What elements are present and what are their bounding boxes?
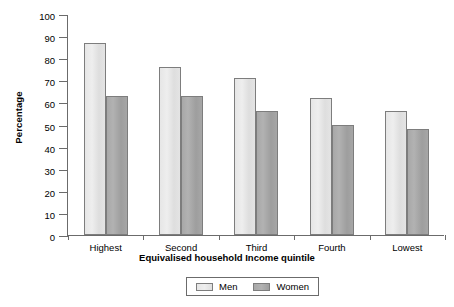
y-axis-tick: 100	[59, 15, 68, 16]
x-axis-tick	[294, 235, 295, 240]
chart-legend: MenWomen	[186, 277, 319, 296]
y-axis-tick-label: 50	[44, 121, 55, 132]
x-axis-tick	[445, 235, 446, 240]
bar-women-fourth[interactable]	[332, 125, 354, 236]
y-axis-tick: 20	[59, 192, 68, 193]
y-axis-tick-label: 100	[39, 11, 55, 22]
y-axis-tick-label: 30	[44, 165, 55, 176]
y-axis-tick-label: 0	[50, 232, 55, 243]
x-axis-tick	[370, 235, 371, 240]
bar-women-highest[interactable]	[106, 96, 128, 235]
y-axis-tick: 0	[59, 236, 68, 237]
legend-swatch-icon	[196, 283, 213, 291]
bar-men-second[interactable]	[159, 67, 181, 235]
legend-item-men[interactable]: Men	[196, 281, 237, 292]
bar-women-second[interactable]	[181, 96, 203, 235]
legend-item-women[interactable]: Women	[253, 281, 309, 292]
y-axis-tick-label: 60	[44, 99, 55, 110]
y-axis-tick-label: 90	[44, 33, 55, 44]
legend-label: Women	[276, 281, 309, 292]
x-axis-tick	[219, 235, 220, 240]
x-axis-title: Equivalised household Income quintile	[0, 252, 454, 263]
plot-area: 1009080706050403020100HighestSecondThird…	[67, 15, 444, 236]
bar-men-third[interactable]	[234, 78, 256, 235]
bar-chart: Percentage 1009080706050403020100Highest…	[0, 0, 454, 307]
x-axis-tick	[68, 235, 69, 240]
bar-men-lowest[interactable]	[385, 111, 407, 235]
y-axis-tick-label: 40	[44, 143, 55, 154]
legend-swatch-icon	[253, 283, 270, 291]
x-axis-tick	[143, 235, 144, 240]
bar-group: Second	[143, 15, 218, 235]
y-axis-tick: 10	[59, 214, 68, 215]
bar-group-bars	[370, 15, 445, 235]
y-axis-tick-label: 10	[44, 209, 55, 220]
bar-women-lowest[interactable]	[407, 129, 429, 235]
y-axis-tick: 90	[59, 37, 68, 38]
y-axis-tick: 50	[59, 126, 68, 127]
bar-men-fourth[interactable]	[310, 98, 332, 235]
bar-men-highest[interactable]	[84, 43, 106, 235]
legend-label: Men	[219, 281, 237, 292]
y-axis-tick-label: 70	[44, 77, 55, 88]
bar-group-bars	[143, 15, 218, 235]
y-axis-tick-label: 20	[44, 187, 55, 198]
y-axis-title: Percentage	[13, 68, 24, 168]
y-axis-tick: 40	[59, 148, 68, 149]
bar-women-third[interactable]	[256, 111, 278, 235]
bar-group-bars	[294, 15, 369, 235]
bar-group: Fourth	[294, 15, 369, 235]
bar-group: Highest	[68, 15, 143, 235]
y-axis-tick: 80	[59, 59, 68, 60]
bar-group-bars	[68, 15, 143, 235]
y-axis-tick: 70	[59, 81, 68, 82]
y-axis-tick: 60	[59, 103, 68, 104]
y-axis-tick: 30	[59, 170, 68, 171]
bar-group: Third	[219, 15, 294, 235]
bar-group-bars	[219, 15, 294, 235]
y-axis-tick-label: 80	[44, 55, 55, 66]
bar-group: Lowest	[370, 15, 445, 235]
